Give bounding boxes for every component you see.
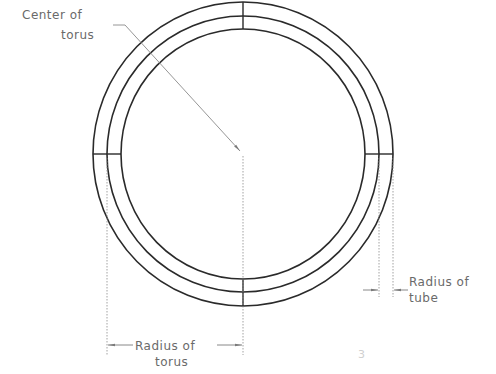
tube-radius-label-line1: Radius of	[409, 275, 469, 289]
stray-mark: 3	[358, 348, 365, 361]
torus-radius-label-line2: torus	[155, 355, 188, 369]
tube-radius-label-line2: tube	[409, 291, 438, 305]
torus-diagram: Center of torus Radius of torus Radius o…	[0, 0, 496, 374]
diagram-svg: Center of torus Radius of torus Radius o…	[0, 0, 496, 374]
center-label-line2: torus	[61, 28, 94, 42]
section-ticks	[93, 2, 393, 306]
torus-radius-label-line1: Radius of	[135, 339, 195, 353]
center-label-line1: Center of	[22, 8, 83, 22]
center-leader	[113, 25, 240, 151]
outer-circle	[93, 2, 393, 306]
middle-circle	[107, 16, 379, 292]
torus-outline	[93, 2, 393, 306]
